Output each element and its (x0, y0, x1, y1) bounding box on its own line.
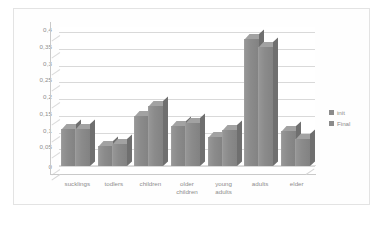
legend-item-label: Final (337, 120, 350, 127)
bar-body (208, 137, 223, 166)
bar-body (75, 129, 90, 166)
bar-body (61, 129, 76, 166)
bar-side-face (163, 97, 168, 166)
legend-item-label: init (337, 109, 345, 116)
bar-group (98, 27, 126, 175)
bar-body (295, 139, 310, 166)
bar-body (148, 106, 163, 166)
bar-body (185, 123, 200, 166)
legend-item-final[interactable]: Final (329, 120, 350, 127)
x-axis-category-label: elder (272, 180, 321, 188)
legend-swatch-icon (329, 121, 334, 126)
legend-swatch-icon (329, 110, 334, 115)
plot-area: 00,050,10,150,20,250,30,350,4 (59, 27, 315, 175)
chart-figure: 00,050,10,150,20,250,30,350,4 sucklingst… (13, 8, 370, 205)
bar-body (281, 131, 296, 166)
bar-group (134, 27, 162, 175)
chart-legend: initFinal (329, 109, 350, 127)
bar-body (222, 130, 237, 166)
bar-body (258, 47, 273, 166)
bar-body (98, 146, 113, 166)
bar-side-face (200, 114, 205, 166)
bar-body (112, 144, 127, 166)
bar-group (281, 27, 309, 175)
bar-side-face (237, 120, 242, 166)
bar-body (171, 126, 186, 166)
bar-side-face (90, 120, 95, 166)
y-axis-line (50, 22, 51, 175)
legend-item-init[interactable]: init (329, 109, 350, 116)
bar-group (244, 27, 272, 175)
bar-body (244, 39, 259, 166)
bar-side-face (310, 130, 315, 166)
bar-group (208, 27, 236, 175)
bar-group (61, 27, 89, 175)
bar-side-face (273, 38, 278, 166)
bar-group (171, 27, 199, 175)
bar-side-face (127, 135, 132, 166)
bar-body (134, 116, 149, 166)
